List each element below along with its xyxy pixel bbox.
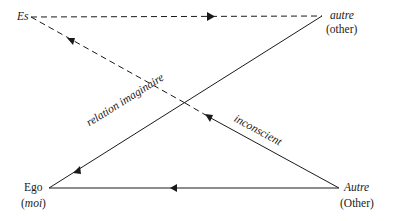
edge-autre-inconscient — [209, 117, 339, 188]
arrow-down-left-icon — [73, 166, 81, 174]
node-ego-gloss-text: moi — [25, 197, 42, 209]
edge-es-autre — [31, 16, 322, 17]
paren-close: ) — [42, 197, 46, 209]
arrow-right-icon — [207, 12, 215, 21]
arrow-left-icon — [170, 184, 177, 192]
node-autre-big-gloss: (Other) — [340, 197, 374, 210]
edge-relation-imaginaire — [49, 16, 322, 188]
node-autre-gloss: (other) — [326, 23, 357, 36]
edge-crossing-dashed-2 — [185, 103, 209, 117]
node-autre-big-label: Autre — [344, 181, 369, 194]
node-es-label: Es — [17, 10, 29, 23]
node-autre-label: autre — [330, 9, 354, 22]
arrow-up-left-icon — [67, 38, 75, 45]
edge-es-crossing-dashed — [31, 17, 185, 103]
node-ego-label: Ego — [24, 181, 43, 194]
node-ego-gloss: (moi) — [21, 197, 46, 210]
